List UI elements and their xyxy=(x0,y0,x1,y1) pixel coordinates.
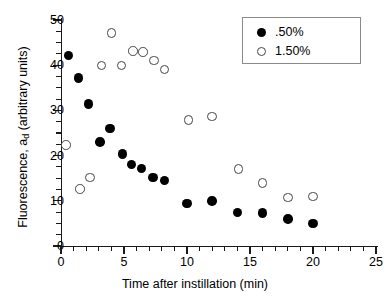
y-axis-label: Fluorescence, ad (arbitrary units) xyxy=(16,22,30,252)
data-point-filled-circle xyxy=(182,199,192,209)
x-tick-minor xyxy=(325,246,326,251)
x-tick-minor xyxy=(161,246,162,251)
x-tick-minor xyxy=(237,246,238,251)
x-tick-major xyxy=(312,246,313,254)
x-tick-major xyxy=(375,246,376,254)
x-tick-minor xyxy=(98,246,99,251)
data-point-filled-circle xyxy=(95,137,105,147)
x-tick-minor xyxy=(212,246,213,251)
x-tick-minor xyxy=(224,246,225,251)
data-point-open-circle xyxy=(283,193,293,203)
data-point-open-circle xyxy=(128,46,138,56)
data-point-filled-circle xyxy=(148,173,158,183)
legend-marker-filled-circle-icon xyxy=(257,28,266,37)
legend-entry-1: 1.50% xyxy=(257,42,310,60)
x-tick-major xyxy=(60,246,61,254)
data-point-filled-circle xyxy=(283,214,293,224)
legend-label-1: 1.50% xyxy=(275,45,310,58)
data-point-filled-circle xyxy=(258,208,268,218)
x-tick-minor xyxy=(199,246,200,251)
x-tick-label: 10 xyxy=(180,256,194,269)
x-tick-label: 0 xyxy=(58,256,65,269)
legend-entry-0: .50% xyxy=(257,23,304,41)
data-point-filled-circle xyxy=(308,219,318,229)
x-tick-minor xyxy=(111,246,112,251)
x-tick-minor xyxy=(86,246,87,251)
data-point-open-circle xyxy=(138,47,148,57)
data-point-open-circle xyxy=(61,140,71,150)
y-axis-label-subscript: d xyxy=(21,134,31,139)
x-tick-minor xyxy=(136,246,137,251)
x-tick-label: 5 xyxy=(121,256,128,269)
x-tick-minor xyxy=(262,246,263,251)
y-axis-label-suffix: (arbitrary units) xyxy=(16,46,30,134)
data-point-open-circle xyxy=(308,192,318,202)
y-axis-label-prefix: Fluorescence, a xyxy=(16,139,30,228)
x-tick-major xyxy=(186,246,187,254)
x-tick-major xyxy=(249,246,250,254)
data-point-filled-circle xyxy=(118,149,128,159)
legend-marker-open-circle-icon xyxy=(257,47,266,56)
x-tick-minor xyxy=(287,246,288,251)
x-tick-major xyxy=(123,246,124,254)
data-point-filled-circle xyxy=(74,73,84,83)
x-tick-minor xyxy=(338,246,339,251)
x-tick-minor xyxy=(174,246,175,251)
data-point-open-circle xyxy=(75,184,85,194)
chart-legend: .50% 1.50% xyxy=(242,17,361,64)
data-point-filled-circle xyxy=(105,124,115,134)
x-tick-label: 25 xyxy=(369,256,383,269)
x-tick-label: 15 xyxy=(243,256,257,269)
x-tick-minor xyxy=(300,246,301,251)
legend-label-0: .50% xyxy=(275,26,304,39)
x-tick-minor xyxy=(73,246,74,251)
data-point-open-circle xyxy=(107,28,117,38)
data-point-open-circle xyxy=(85,173,95,183)
data-point-open-circle xyxy=(184,115,194,125)
x-axis-label: Time after instillation (min) xyxy=(0,277,390,291)
x-tick-minor xyxy=(149,246,150,251)
scatter-chart-figure: 010203040500510152025 Fluorescence, ad (… xyxy=(0,0,390,299)
data-point-filled-circle xyxy=(207,196,217,206)
x-axis-line xyxy=(59,246,378,247)
x-tick-minor xyxy=(275,246,276,251)
x-tick-minor xyxy=(363,246,364,251)
x-tick-label: 20 xyxy=(306,256,320,269)
x-tick-minor xyxy=(350,246,351,251)
